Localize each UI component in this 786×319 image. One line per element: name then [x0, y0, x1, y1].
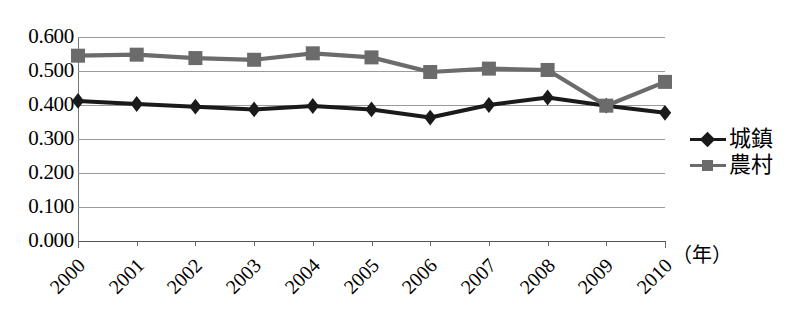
legend-label: 城鎮 [729, 128, 773, 150]
x-axis-tick [254, 241, 255, 246]
diamond-marker [690, 131, 726, 147]
diamond-marker [365, 102, 377, 118]
x-axis-tick [489, 241, 490, 246]
y-axis-tick-label: 0.000 [28, 230, 74, 251]
square-marker [365, 50, 379, 64]
x-axis-tick [195, 241, 196, 246]
y-axis-tick-labels: 0.6000.5000.4000.3000.2000.1000.000 [0, 0, 76, 260]
y-axis-tick-label: 0.600 [28, 26, 74, 47]
x-axis-unit-label: （年） [672, 245, 732, 265]
diamond-marker [659, 105, 671, 121]
square-marker [690, 157, 726, 173]
diamond-marker [131, 96, 143, 112]
square-marker [658, 75, 672, 89]
x-axis-tick-label: 2005 [340, 255, 382, 297]
square-marker [306, 46, 320, 60]
x-axis-tick-label: 2009 [574, 255, 616, 297]
x-axis-tick-label: 2004 [281, 255, 323, 297]
square-marker [482, 62, 496, 76]
y-axis-tick-label: 0.200 [28, 162, 74, 183]
diamond-marker [307, 98, 319, 114]
x-axis-tick [372, 241, 373, 246]
diamond-marker [483, 97, 495, 113]
diamond-marker [248, 102, 260, 118]
square-marker [599, 99, 613, 113]
chart-legend: 城鎮農村 [690, 126, 786, 178]
legend-marker [700, 132, 716, 148]
square-marker [71, 49, 85, 63]
square-marker [541, 63, 555, 77]
y-axis-tick-label: 0.500 [28, 60, 74, 81]
square-marker [423, 65, 437, 79]
legend-marker [702, 160, 713, 171]
x-axis-tick [137, 241, 138, 246]
square-marker [188, 51, 202, 65]
x-axis-tick [313, 241, 314, 246]
legend-label: 農村 [729, 154, 773, 176]
square-marker [247, 53, 261, 67]
legend-item-rural[interactable]: 農村 [690, 152, 786, 178]
y-axis-tick-label: 0.100 [28, 196, 74, 217]
x-axis-tick-label: 2002 [163, 255, 205, 297]
x-axis-tick [430, 241, 431, 246]
x-axis-tick-label: 2006 [398, 255, 440, 297]
x-axis-tick [606, 241, 607, 246]
diamond-marker [424, 110, 436, 126]
x-axis-tick-label: 2007 [457, 255, 499, 297]
x-axis-tick-label: 2000 [46, 255, 88, 297]
x-axis-tick [548, 241, 549, 246]
x-axis-tick-label: 2008 [516, 255, 558, 297]
line-chart: 0.6000.5000.4000.3000.2000.1000.000 2000… [0, 0, 786, 319]
x-axis-tick [78, 241, 79, 248]
diamond-marker [189, 99, 201, 115]
diamond-marker [541, 90, 553, 106]
y-axis-tick-label: 0.300 [28, 128, 74, 149]
series-urban [72, 90, 671, 126]
x-axis-tick [665, 241, 666, 248]
plot-area [78, 37, 665, 241]
x-axis-tick-label: 2010 [633, 255, 675, 297]
x-axis-tick-label: 2003 [222, 255, 264, 297]
y-axis-tick-label: 0.400 [28, 94, 74, 115]
legend-item-urban[interactable]: 城鎮 [690, 126, 786, 152]
square-marker [130, 48, 144, 62]
x-axis-tick-label: 2001 [105, 255, 147, 297]
series-plot [78, 37, 665, 241]
